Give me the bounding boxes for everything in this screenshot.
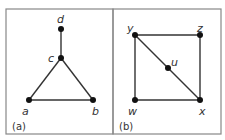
graph-figure: d c a b (a) y z u w x (b): [0, 0, 225, 140]
label-u: u: [171, 56, 178, 69]
edge-y-u: [135, 35, 168, 68]
label-x: x: [198, 105, 206, 118]
label-b: b: [92, 105, 99, 118]
caption-b: (b): [119, 121, 133, 132]
label-a: a: [22, 105, 29, 118]
node-x: [197, 97, 203, 103]
node-d: [58, 26, 64, 32]
label-w: w: [128, 105, 137, 118]
node-b: [90, 97, 96, 103]
caption-a: (a): [12, 121, 26, 132]
label-c: c: [48, 52, 54, 65]
node-c: [58, 55, 64, 61]
edge-c-b: [61, 58, 93, 100]
edge-u-x: [168, 68, 200, 100]
panel-a-edges: [29, 29, 93, 100]
label-y: y: [126, 22, 134, 35]
label-z: z: [196, 22, 203, 35]
node-w: [132, 97, 138, 103]
node-a: [26, 97, 32, 103]
edge-c-a: [29, 58, 61, 100]
label-d: d: [57, 13, 65, 26]
